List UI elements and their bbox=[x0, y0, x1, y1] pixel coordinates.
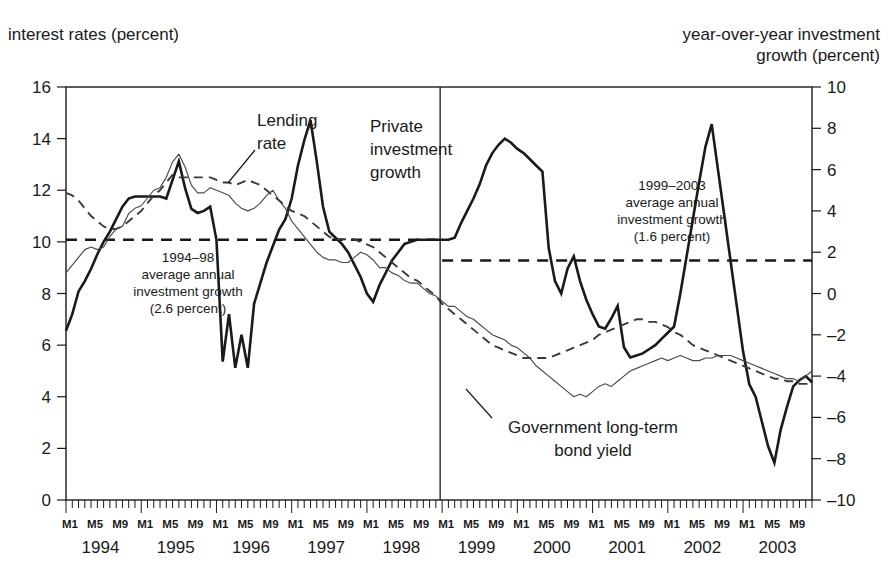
x-year-label: 1994 bbox=[82, 538, 120, 557]
leader-line-lending-rate bbox=[228, 150, 255, 183]
x-month-label: M1 bbox=[288, 518, 305, 530]
right-tick-label: –2 bbox=[827, 326, 846, 345]
right-tick-label: 4 bbox=[827, 202, 836, 221]
x-axis-ticks bbox=[66, 500, 812, 513]
annotation-bond-yield: Government long-termbond yield bbox=[508, 418, 678, 460]
chart-plot-area: 0246810121416 –10–8–6–4–20246810 1994–98… bbox=[0, 0, 888, 579]
annotation-1999-2003-average-growth: 1999–2003average annualinvestment growth… bbox=[617, 178, 727, 244]
x-month-label: M9 bbox=[338, 518, 354, 530]
x-year-label: 1997 bbox=[307, 538, 345, 557]
x-month-label: M9 bbox=[714, 518, 730, 530]
right-tick-label: 2 bbox=[827, 243, 836, 262]
annotation-lending-rate: Lendingrate bbox=[257, 111, 318, 153]
x-month-label: M9 bbox=[112, 518, 128, 530]
x-year-label: 2000 bbox=[533, 538, 571, 557]
x-month-label: M5 bbox=[689, 518, 706, 530]
left-tick-label: 6 bbox=[42, 336, 51, 355]
x-month-label: M5 bbox=[388, 518, 405, 530]
x-year-label: 1996 bbox=[232, 538, 270, 557]
right-axis-title: year-over-year investment growth (percen… bbox=[683, 24, 880, 66]
left-tick-label: 14 bbox=[32, 130, 51, 149]
x-month-label: M5 bbox=[538, 518, 555, 530]
right-tick-label: 0 bbox=[827, 285, 836, 304]
right-tick-label: –10 bbox=[827, 491, 855, 510]
x-year-label: 1995 bbox=[157, 538, 195, 557]
left-tick-label: 10 bbox=[32, 233, 51, 252]
left-tick-label: 4 bbox=[42, 388, 51, 407]
x-month-label: M5 bbox=[87, 518, 104, 530]
chart-figure: interest rates (percent) year-over-year … bbox=[0, 0, 888, 579]
x-month-label: M1 bbox=[62, 518, 79, 530]
right-tick-label: –8 bbox=[827, 450, 846, 469]
x-month-label: M9 bbox=[789, 518, 805, 530]
x-month-label: M1 bbox=[363, 518, 380, 530]
x-year-label: 2003 bbox=[759, 538, 797, 557]
x-month-label: M5 bbox=[764, 518, 781, 530]
left-tick-label: 8 bbox=[42, 285, 51, 304]
x-month-label: M9 bbox=[187, 518, 203, 530]
x-month-label: M9 bbox=[263, 518, 279, 530]
x-year-label: 1998 bbox=[382, 538, 420, 557]
x-month-label: M5 bbox=[614, 518, 631, 530]
x-month-label: M9 bbox=[639, 518, 655, 530]
x-year-label: 2001 bbox=[608, 538, 646, 557]
right-tick-label: –6 bbox=[827, 408, 846, 427]
right-tick-label: 10 bbox=[827, 78, 846, 97]
x-month-label: M5 bbox=[463, 518, 480, 530]
right-tick-label: 6 bbox=[827, 161, 836, 180]
x-year-label: 2002 bbox=[683, 538, 721, 557]
x-month-label: M5 bbox=[313, 518, 330, 530]
x-month-label: M9 bbox=[488, 518, 504, 530]
x-month-label: M1 bbox=[739, 518, 756, 530]
right-tick-label: 8 bbox=[827, 119, 836, 138]
left-tick-label: 0 bbox=[42, 491, 51, 510]
x-month-label: M5 bbox=[238, 518, 255, 530]
x-axis-labels: M1M5M91994M1M5M91995M1M5M91996M1M5M91997… bbox=[62, 518, 805, 557]
x-month-label: M5 bbox=[162, 518, 179, 530]
x-month-label: M1 bbox=[589, 518, 606, 530]
x-month-label: M1 bbox=[513, 518, 530, 530]
x-month-label: M1 bbox=[438, 518, 455, 530]
x-year-label: 1999 bbox=[458, 538, 496, 557]
chart-annotations: 1994–98average annualinvestment growth(2… bbox=[133, 111, 727, 460]
x-month-label: M1 bbox=[137, 518, 154, 530]
left-tick-label: 16 bbox=[32, 78, 51, 97]
x-month-label: M9 bbox=[413, 518, 429, 530]
x-month-label: M1 bbox=[664, 518, 681, 530]
x-month-label: M9 bbox=[564, 518, 580, 530]
left-tick-label: 2 bbox=[42, 439, 51, 458]
right-axis-ticks: –10–8–6–4–20246810 bbox=[812, 78, 855, 510]
left-tick-label: 12 bbox=[32, 181, 51, 200]
annotation-1994-98-average-growth: 1994–98average annualinvestment growth(2… bbox=[133, 250, 243, 316]
x-month-label: M1 bbox=[212, 518, 229, 530]
left-axis-title: interest rates (percent) bbox=[8, 24, 179, 45]
figure-title-clipped bbox=[0, 0, 888, 8]
right-tick-label: –4 bbox=[827, 367, 846, 386]
left-axis-ticks: 0246810121416 bbox=[32, 78, 66, 510]
leader-line-bond-yield bbox=[466, 389, 492, 418]
